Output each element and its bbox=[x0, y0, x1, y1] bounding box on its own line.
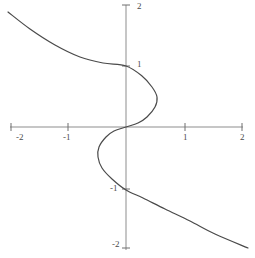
y-tick-label-neg2: -2 bbox=[112, 240, 120, 249]
x-tick-label-neg1: -1 bbox=[63, 133, 71, 142]
plot-figure: -2 -1 1 2 2 1 -1 -2 bbox=[0, 0, 255, 258]
y-tick-label-pos1: 1 bbox=[137, 60, 142, 69]
y-tick-label-pos2: 2 bbox=[137, 2, 142, 11]
x-tick-label-pos2: 2 bbox=[240, 133, 245, 142]
y-tick-label-neg1: -1 bbox=[110, 184, 118, 193]
x-tick-label-pos1: 1 bbox=[183, 133, 188, 142]
cubic-curve-path bbox=[8, 12, 248, 248]
x-tick-label-neg2: -2 bbox=[16, 133, 24, 142]
plot-canvas bbox=[0, 0, 255, 258]
